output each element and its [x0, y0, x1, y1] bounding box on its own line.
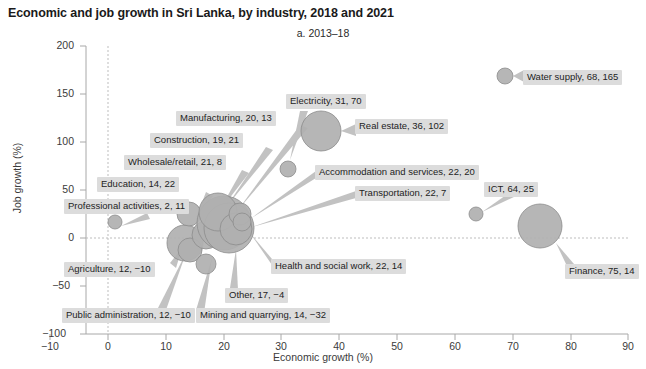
bubble-ict: [469, 207, 483, 221]
label-professional-activities: Professional activities, 2, 11: [64, 199, 189, 214]
y-axis-title: Job growth (%): [11, 123, 23, 233]
label-real-estate: Real estate, 36, 102: [355, 119, 448, 134]
y-tick-50: 50: [40, 183, 74, 195]
label-water-supply: Water supply, 68, 165: [523, 70, 622, 85]
label-agriculture: Agriculture, 12, −10: [64, 262, 155, 277]
bubble-professional-activities: [108, 215, 122, 229]
y-tick-150: 150: [40, 87, 74, 99]
bubble-mining-and-quarrying: [196, 254, 216, 274]
y-tick-neg50: −50: [36, 279, 70, 291]
y-tick-100: 100: [40, 135, 74, 147]
label-public-administration: Public administration, 12, −10: [62, 308, 195, 323]
y-tick-marks: [80, 46, 86, 334]
label-other: Other, 17, −4: [225, 288, 288, 303]
label-finance: Finance, 75, 14: [565, 264, 639, 279]
bubble-chart: Economic and job growth in Sri Lanka, by…: [0, 0, 646, 369]
leader-transportation: [252, 191, 356, 227]
leader-real-estate: [341, 124, 356, 136]
bubble-health-and-social-work: [233, 213, 251, 231]
bubble-real-estate: [301, 111, 341, 151]
label-health-and-social-work: Health and social work, 22, 14: [271, 259, 406, 274]
plot-area: 200 150 100 50 0 −50 −100 −10 0 10 20 30…: [0, 0, 646, 369]
leader-manufacturing: [238, 125, 308, 210]
label-electricity: Electricity, 31, 70: [286, 94, 366, 109]
label-wholesale-retail: Wholesale/retail, 21, 8: [124, 155, 226, 170]
leader-professional: [121, 213, 150, 226]
y-tick-0: 0: [40, 231, 74, 243]
label-construction: Construction, 19, 21: [150, 133, 243, 148]
y-tick-neg100: −100: [32, 327, 66, 339]
leader-finance: [556, 243, 574, 264]
label-mining-and-quarrying: Mining and quarrying, 14, −32: [196, 308, 330, 323]
label-transportation: Transportation, 22, 7: [355, 186, 450, 201]
y-tick-200: 200: [40, 39, 74, 51]
leader-health: [250, 233, 272, 265]
bubble-finance: [518, 204, 562, 248]
bubble-water-supply: [497, 68, 513, 84]
leader-other: [230, 249, 238, 290]
label-manufacturing: Manufacturing, 20, 13: [176, 111, 276, 126]
label-education: Education, 14, 22: [97, 177, 179, 192]
x-axis-title: Economic growth (%): [0, 351, 646, 363]
bubble-electricity: [280, 161, 296, 177]
label-ict: ICT, 64, 25: [484, 182, 538, 197]
label-accommodation: Accommodation and services, 22, 20: [315, 165, 479, 180]
